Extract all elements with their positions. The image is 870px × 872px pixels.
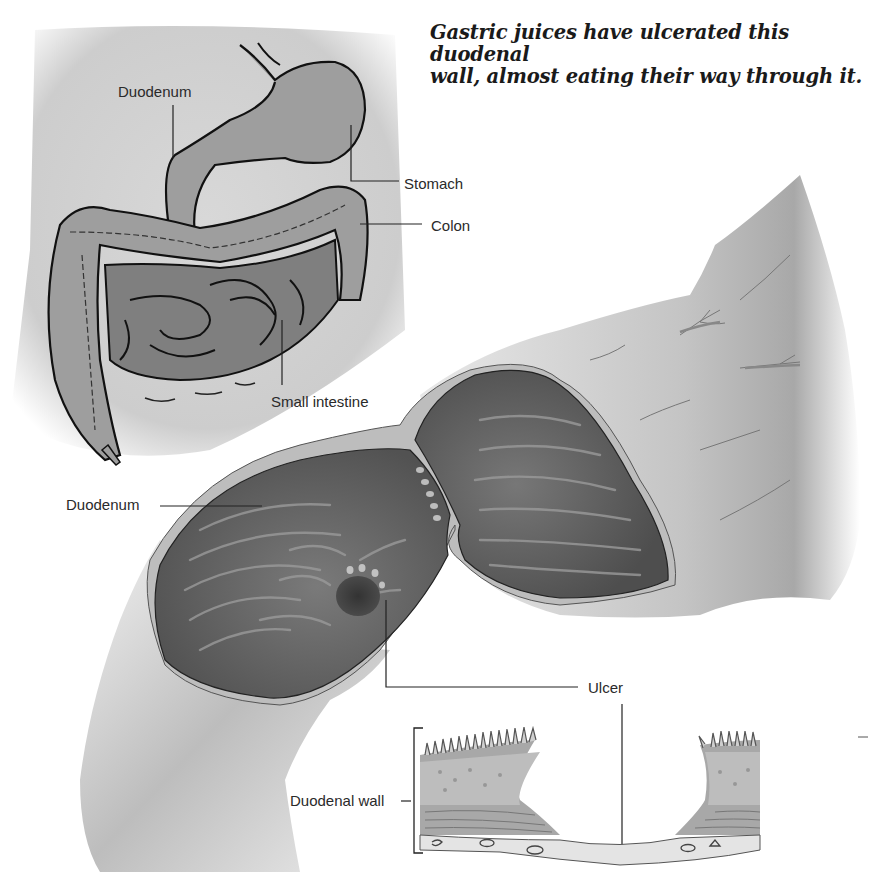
caption-line-2: wall, almost eating their way through it… [430, 66, 870, 88]
ulcer-crater [336, 576, 380, 616]
label-colon: Colon [431, 218, 470, 234]
caption-line-1: Gastric juices have ulcerated this duode… [430, 22, 870, 66]
label-small-intestine: Small intestine [271, 394, 369, 410]
label-stomach: Stomach [404, 176, 463, 192]
anatomy-drawing [0, 0, 870, 872]
label-ulcer: Ulcer [588, 680, 623, 696]
leader-ulcer [386, 600, 578, 687]
wall-cross-section [401, 727, 760, 865]
illustration: Gastric juices have ulcerated this duode… [0, 0, 870, 872]
caption: Gastric juices have ulcerated this duode… [430, 22, 870, 88]
lumen-left [155, 449, 450, 698]
label-duodenum-overview: Duodenum [118, 84, 191, 100]
label-duodenum-detail: Duodenum [66, 497, 139, 513]
label-duodenal-wall: Duodenal wall [290, 793, 384, 809]
